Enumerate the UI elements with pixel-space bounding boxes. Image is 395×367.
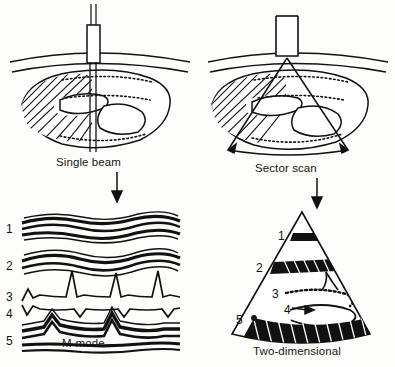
m-mode-trace-2 — [22, 249, 180, 276]
m-mode-trace-4 — [22, 305, 180, 317]
two-d-label-1: 1 — [278, 229, 285, 243]
two-d-label-3: 3 — [272, 287, 279, 301]
panel-sector-scan: Sector scan — [198, 0, 395, 175]
panel-m-mode: 1 2 3 4 5 M-mode — [0, 205, 197, 367]
m-mode-label-1: 1 — [6, 222, 13, 236]
m-mode-label-2: 2 — [6, 259, 13, 273]
m-mode-trace-1 — [22, 212, 180, 243]
two-d-label-2: 2 — [256, 261, 263, 275]
two-d-label-4: 4 — [284, 303, 291, 317]
panel-two-dimensional: 1 2 3 4 5 Two-dimensional — [198, 200, 395, 367]
arrow-single-to-mmode — [105, 172, 129, 204]
caption-single-beam: Single beam — [56, 156, 121, 168]
two-d-label-5: 5 — [236, 313, 243, 327]
caption-m-mode: M-mode — [62, 337, 105, 349]
caption-two-dimensional: Two-dimensional — [253, 345, 341, 357]
transducer-sector — [276, 16, 298, 56]
m-mode-label-5: 5 — [6, 334, 13, 348]
caption-sector-scan: Sector scan — [255, 162, 317, 174]
m-mode-label-3: 3 — [6, 290, 13, 304]
transducer-single-beam — [87, 4, 100, 63]
m-mode-label-4: 4 — [6, 307, 13, 321]
panel-single-beam: Single beam — [0, 0, 197, 175]
